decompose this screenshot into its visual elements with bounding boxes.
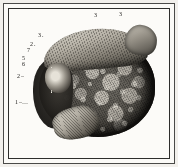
ref-leader-upper-left: . — [42, 32, 44, 38]
ref-label-lower-left-1: 1–… — [15, 99, 28, 105]
ref-label-left-2b: 2– — [17, 73, 24, 79]
engraving-plate: 3 3 3. 2. 7 5 6 2– 1–… — [0, 0, 178, 167]
ref-leader-left-2a: . — [34, 41, 36, 47]
radiating-strands — [51, 67, 77, 93]
ref-label-top-left: 3 — [94, 12, 97, 18]
ref-leader-lower-left-1: –… — [19, 99, 28, 105]
ref-label-left-7: 7 — [27, 47, 30, 53]
ref-label-left-2a: 2. — [30, 41, 36, 47]
ref-label-top-right: 3 — [119, 11, 122, 17]
ref-label-left-6: 6 — [22, 61, 25, 67]
specimen-illustration — [31, 23, 159, 139]
ref-leader-left-2b: – — [21, 73, 24, 79]
plate-field: 3 3 3. 2. 7 5 6 2– 1–… — [9, 9, 169, 158]
ref-label-upper-left: 3. — [38, 32, 44, 38]
